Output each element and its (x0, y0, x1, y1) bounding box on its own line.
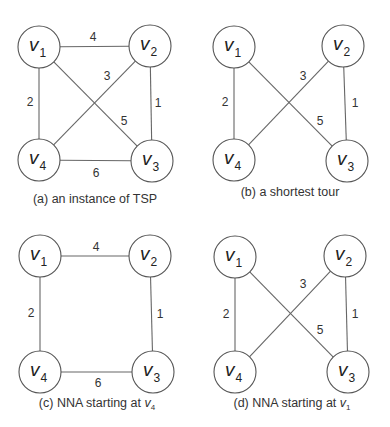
edges: 1235 (223, 271, 359, 357)
caption-subscript: 1 (346, 403, 351, 412)
vertex-label-subscript: 3 (153, 160, 160, 174)
caption-text: (a) an instance of TSP (33, 192, 157, 206)
vertex-label-subscript: 1 (40, 46, 47, 60)
vertex-v4: v4 (19, 351, 61, 393)
edge-weight-label: 1 (352, 96, 359, 110)
caption-text: (b) a shortest tour (241, 185, 340, 199)
vertex-label-base: v (224, 147, 235, 168)
vertex-label-subscript: 2 (151, 45, 158, 59)
vertex-v4: v4 (213, 139, 255, 181)
panel-caption: (b) a shortest tour (241, 185, 340, 199)
panel-a: 416235v1v2v3v4(a) an instance of TSP (18, 25, 173, 206)
vertex-label-subscript: 3 (348, 160, 355, 174)
edge-v1-v2 (60, 46, 129, 47)
vertex-label-subscript: 4 (235, 159, 242, 173)
vertex-label-base: v (225, 244, 236, 265)
edge-v1-v3 (249, 62, 332, 146)
edge-weight-label: 1 (157, 307, 164, 321)
vertex-label-base: v (140, 33, 151, 54)
vertex-v2: v2 (129, 235, 171, 277)
edge-v2-v3 (151, 277, 153, 351)
edge-weight-label: 4 (93, 240, 100, 254)
edge-v1-v3 (250, 272, 334, 357)
vertex-label-subscript: 2 (346, 255, 353, 269)
panel-caption: (a) an instance of TSP (33, 192, 157, 206)
edge-weight-label: 2 (223, 307, 230, 321)
vertex-v1: v1 (214, 236, 256, 278)
vertex-label-subscript: 3 (154, 371, 161, 385)
edge-weight-label: 2 (28, 306, 35, 320)
edge-weight-label: 5 (317, 323, 324, 337)
vertex-v2: v2 (129, 25, 171, 67)
edge-weight-label: 3 (300, 69, 307, 83)
vertex-v4: v4 (18, 139, 60, 181)
vertex-v3: v3 (131, 140, 173, 182)
vertex-label-subscript: 4 (236, 371, 243, 385)
edge-weight-label: 1 (155, 96, 162, 110)
vertex-label-base: v (143, 359, 154, 380)
vertex-label-base: v (333, 33, 344, 54)
vertex-label-base: v (224, 34, 235, 55)
vertex-v1: v1 (213, 26, 255, 68)
edge-weight-label: 4 (90, 30, 97, 44)
vertex-v1: v1 (19, 235, 61, 277)
vertex-label-base: v (140, 243, 151, 264)
edges: 1235 (222, 61, 359, 146)
vertex-v3: v3 (326, 140, 368, 182)
caption-text: (c) NNA starting at (39, 396, 145, 410)
edge-weight-label: 6 (95, 376, 102, 390)
edge-weight-label: 3 (104, 69, 111, 83)
vertex-label-base: v (142, 148, 153, 169)
vertex-label-subscript: 1 (235, 46, 242, 60)
edge-weight-label: 2 (222, 95, 229, 109)
caption-subscript: 4 (151, 403, 156, 412)
vertex-label-subscript: 3 (349, 371, 356, 385)
edge-v1-v3 (54, 62, 137, 146)
panel-b: 1235v1v2v3v4(b) a shortest tour (213, 25, 368, 199)
edge-weight-label: 6 (93, 166, 100, 180)
panel-c: 4162v1v2v3v4(c) NNA starting at v4 (19, 235, 174, 412)
vertex-label-base: v (338, 359, 349, 380)
edge-weight-label: 1 (352, 307, 359, 321)
vertex-v2: v2 (324, 235, 366, 277)
vertex-v4: v4 (214, 351, 256, 393)
vertex-label-subscript: 1 (41, 255, 48, 269)
vertex-v1: v1 (18, 26, 60, 68)
edge-v3-v4 (60, 160, 131, 161)
vertex-label-subscript: 2 (151, 255, 158, 269)
vertex-v3: v3 (132, 351, 174, 393)
vertex-label-base: v (335, 243, 346, 264)
vertex-label-base: v (30, 359, 41, 380)
vertex-label-subscript: 4 (41, 371, 48, 385)
edge-weight-label: 5 (317, 114, 324, 128)
vertex-label-base: v (337, 148, 348, 169)
vertex-label-subscript: 2 (344, 45, 351, 59)
edge-weight-label: 5 (121, 114, 128, 128)
edge-v2-v3 (346, 277, 348, 351)
vertex-label-base: v (29, 147, 40, 168)
vertex-label-base: v (30, 243, 41, 264)
vertex-label-base: v (29, 34, 40, 55)
panel-caption: (d) NNA starting at v1 (234, 396, 352, 412)
panel-d: 1235v1v2v3v4(d) NNA starting at v1 (214, 235, 369, 412)
edge-v2-v3 (150, 67, 151, 140)
edge-weight-label: 3 (300, 277, 307, 291)
edge-weight-label: 2 (27, 95, 34, 109)
vertex-label-subscript: 4 (40, 159, 47, 173)
edge-v2-v3 (344, 67, 347, 140)
caption-text: (d) NNA starting at (234, 396, 340, 410)
vertex-label-subscript: 1 (236, 256, 243, 270)
vertex-v3: v3 (327, 351, 369, 393)
vertex-v2: v2 (322, 25, 364, 67)
vertex-label-base: v (225, 359, 236, 380)
tsp-figure: 416235v1v2v3v4(a) an instance of TSP1235… (0, 0, 390, 427)
panel-caption: (c) NNA starting at v4 (39, 396, 156, 412)
